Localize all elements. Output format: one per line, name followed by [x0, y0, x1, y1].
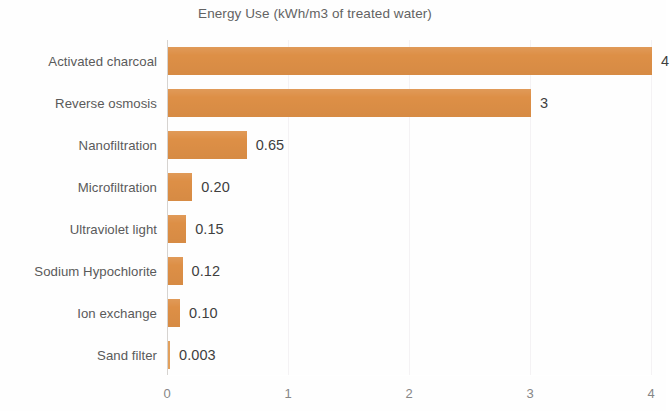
- bar-and-value: 4: [168, 40, 669, 82]
- x-axis-rule: [167, 375, 652, 376]
- bar-row: Ion exchange0.10: [0, 292, 666, 334]
- bar-value-label: 0.003: [179, 347, 216, 363]
- x-tick-label: 2: [389, 386, 429, 401]
- bar-value-label: 3: [540, 95, 548, 111]
- x-tick-label: 1: [268, 386, 308, 401]
- bar: [168, 89, 531, 117]
- bar-row: Ultraviolet light0.15: [0, 208, 666, 250]
- bar-value-label: 4: [661, 53, 669, 69]
- bar-value-label: 0.20: [201, 179, 230, 195]
- category-label: Sand filter: [0, 334, 157, 376]
- chart-title-text: Energy Use (kWh/m3 of treated water): [198, 6, 432, 21]
- bar-row: Reverse osmosis3: [0, 82, 666, 124]
- bar-row: Microfiltration0.20: [0, 166, 666, 208]
- bar-and-value: 0.003: [168, 334, 216, 376]
- bar: [168, 215, 186, 243]
- category-label: Ultraviolet light: [0, 208, 157, 250]
- bar-value-label: 0.12: [192, 263, 221, 279]
- category-label: Activated charcoal: [0, 40, 157, 82]
- bar-value-label: 0.10: [189, 305, 218, 321]
- bar: [168, 341, 170, 369]
- bar-and-value: 0.15: [168, 208, 224, 250]
- x-tick-label: 4: [631, 386, 671, 401]
- bar-row: Sand filter0.003: [0, 334, 666, 376]
- category-label: Microfiltration: [0, 166, 157, 208]
- category-label: Nanofiltration: [0, 124, 157, 166]
- bar-and-value: 3: [168, 82, 548, 124]
- bar-value-label: 0.15: [195, 221, 224, 237]
- bar-row: Activated charcoal4: [0, 40, 666, 82]
- bar-and-value: 0.65: [168, 124, 284, 166]
- bar-row: Nanofiltration0.65: [0, 124, 666, 166]
- category-label: Sodium Hypochlorite: [0, 250, 157, 292]
- bar-row: Sodium Hypochlorite0.12: [0, 250, 666, 292]
- category-label: Ion exchange: [0, 292, 157, 334]
- category-label: Reverse osmosis: [0, 82, 157, 124]
- chart-title: Energy Use (kWh/m3 of treated water): [0, 6, 666, 21]
- bar: [168, 131, 247, 159]
- bar-and-value: 0.10: [168, 292, 218, 334]
- x-tick-label: 3: [510, 386, 550, 401]
- bar: [168, 257, 183, 285]
- x-tick-label: 0: [147, 386, 187, 401]
- bar-and-value: 0.20: [168, 166, 230, 208]
- bar-value-label: 0.65: [256, 137, 285, 153]
- bar: [168, 47, 652, 75]
- bar: [168, 173, 192, 201]
- bar: [168, 299, 180, 327]
- x-axis: 01234: [0, 375, 666, 411]
- bar-and-value: 0.12: [168, 250, 220, 292]
